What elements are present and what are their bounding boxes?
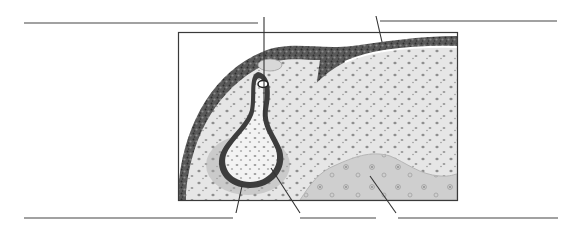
label-bottom-right[interactable] [398,203,558,217]
label-top-left[interactable] [24,8,258,22]
duct-opening [258,81,268,88]
label-bottom-middle[interactable] [300,203,376,217]
diagram [0,0,580,239]
label-bottom-left[interactable] [24,203,233,217]
tissue-section [179,33,457,200]
cyst [258,59,282,71]
label-top-right[interactable] [380,6,557,20]
